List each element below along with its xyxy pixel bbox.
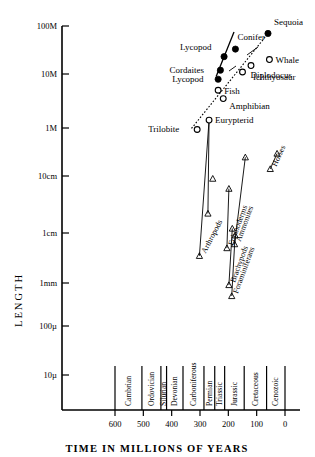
y-axis-tick-label: 1cm xyxy=(42,228,57,238)
period-label: Ordovician xyxy=(147,372,156,406)
y-axis-tick-label: 100µ xyxy=(39,321,57,331)
period-label: Devonian xyxy=(170,376,179,406)
y-axis-tick-label: 10µ xyxy=(44,370,58,380)
y-axis-title: LENGTH xyxy=(13,273,24,327)
period-label: Permian xyxy=(205,380,214,406)
data-point-label: Amphibian xyxy=(229,101,270,111)
x-axis-tick-label: 600 xyxy=(109,419,122,429)
period-label: Cretaceous xyxy=(251,372,260,406)
x-axis-tick-label: 500 xyxy=(137,419,150,429)
x-axis-tick-label: 300 xyxy=(194,419,207,429)
y-axis-tick-label: 10cm xyxy=(38,171,57,181)
data-point-marker xyxy=(248,63,254,69)
group-label: Arthropods xyxy=(199,218,224,254)
data-point-marker xyxy=(215,87,221,93)
x-axis-title: TIME IN MILLIONS OF YEARS xyxy=(65,443,248,454)
period-label: Cambrian xyxy=(124,376,133,406)
data-point-marker xyxy=(267,57,273,63)
data-point-marker xyxy=(265,30,271,36)
x-axis-tick-label: 0 xyxy=(283,419,287,429)
y-axis-tick-label: 100M xyxy=(37,21,58,31)
data-point-marker xyxy=(194,127,200,133)
data-point-label: Trilobite xyxy=(148,124,179,134)
label-leader-line xyxy=(247,47,258,55)
data-point-label: Eurypterid xyxy=(215,115,254,125)
y-axis-tick-label: 1mm xyxy=(40,278,58,288)
data-point-marker xyxy=(217,67,223,73)
period-label: Cenozoic xyxy=(271,377,280,406)
data-point-marker xyxy=(215,76,221,82)
data-point-marker xyxy=(240,69,246,75)
length-vs-time-chart: 100M10M1M10cm1cm1mm100µ10µLENGTH60050040… xyxy=(0,0,315,457)
data-point-label: Sequoia xyxy=(274,17,303,27)
x-axis-tick-label: 100 xyxy=(250,419,263,429)
x-axis-tick-label: 200 xyxy=(222,419,235,429)
data-point-marker xyxy=(220,96,226,102)
data-point-marker xyxy=(232,46,238,52)
data-point-label: Whale xyxy=(275,55,298,65)
x-axis-tick-label: 400 xyxy=(165,419,178,429)
data-point-marker xyxy=(206,117,212,123)
data-point-marker xyxy=(221,54,227,60)
group-label: Horses xyxy=(270,144,288,168)
data-point-label: Ichthyosaur xyxy=(253,72,296,82)
data-point-label: Lycopod xyxy=(172,74,204,84)
period-label: Triassic xyxy=(215,382,224,406)
y-axis-tick-label: 1M xyxy=(45,123,57,133)
data-point-label: Fish xyxy=(224,86,240,96)
data-point-label: Lycopod xyxy=(180,42,212,52)
label-leader-line xyxy=(229,66,236,71)
data-point-label: Conifer xyxy=(237,32,265,42)
period-label: Carboniferous xyxy=(189,363,198,406)
y-axis-tick-label: 10M xyxy=(41,69,58,79)
period-label: Jurassic xyxy=(230,381,239,406)
group-marker-triangle xyxy=(210,176,216,182)
